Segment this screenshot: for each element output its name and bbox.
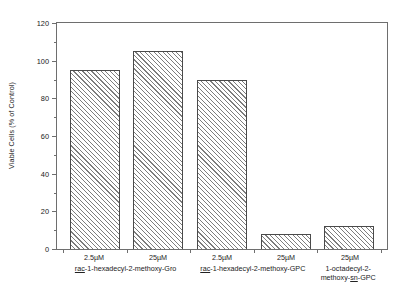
y-axis-title: Viable Cells (% of Control) (7, 82, 16, 169)
dose-label-2: 2.5µM (197, 253, 247, 264)
x-axis-group-labels: rac-1-hexadecyl-2-methoxy-Gro rac-1-hexa… (56, 265, 388, 297)
x-axis-dose-labels: 2.5µM25µM2.5µM25µM25µM (56, 253, 388, 264)
group-label-0-prefix: rac (75, 264, 85, 273)
dose-label-4: 25µM (325, 253, 375, 264)
bar-2[interactable] (197, 80, 247, 250)
y-tick-label-80: 80 (41, 94, 49, 103)
y-tick-label-20: 20 (41, 207, 49, 216)
group-label-2-line2: methoxy-sn-GPC (303, 274, 393, 283)
y-tick-label-0: 0 (45, 245, 49, 254)
y-tick-label-100: 100 (37, 56, 49, 65)
bar-3[interactable] (261, 234, 311, 249)
chart-figure: Viable Cells (% of Control) 020406080100… (0, 0, 409, 300)
y-tick-label-40: 40 (41, 169, 49, 178)
dose-label-0: 2.5µM (69, 253, 119, 264)
y-tick-label-120: 120 (37, 19, 49, 28)
group-label-0: rac-1-hexadecyl-2-methoxy-Gro (56, 265, 196, 274)
bar-4[interactable] (324, 226, 374, 249)
y-tick-label-60: 60 (41, 132, 49, 141)
group-label-2-line2-a: methoxy- (321, 273, 351, 282)
group-label-2: 1-octadecyl-2- methoxy-sn-GPC (303, 265, 393, 282)
group-label-1-rest: -1-hexadecyl-2-methoxy-GPC (210, 264, 305, 273)
group-label-0-rest: -1-hexadecyl-2-methoxy-Gro (85, 264, 176, 273)
bar-1[interactable] (133, 51, 183, 249)
y-axis-title-container: Viable Cells (% of Control) (2, 0, 20, 250)
group-label-2-line2-b: sn (350, 273, 358, 282)
group-label-1-prefix: rac (200, 264, 210, 273)
dose-label-1: 25µM (133, 253, 183, 264)
y-tick-0 (52, 249, 57, 250)
plot-area: 020406080100120 (56, 22, 388, 250)
group-label-2-line2-c: -GPC (358, 273, 376, 282)
bar-0[interactable] (70, 70, 120, 249)
dose-label-3: 25µM (261, 253, 311, 264)
bar-series (57, 23, 387, 249)
group-label-1: rac-1-hexadecyl-2-methoxy-GPC (183, 265, 323, 274)
